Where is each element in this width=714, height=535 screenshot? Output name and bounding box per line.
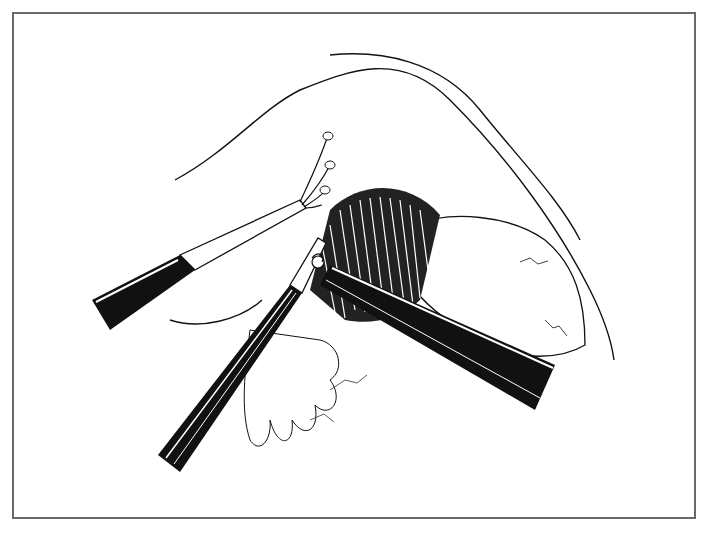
retractor-fan-instrument	[92, 132, 335, 330]
surgical-illustration	[0, 0, 714, 535]
